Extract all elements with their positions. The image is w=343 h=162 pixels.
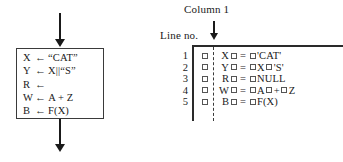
outgoing-flow-line	[59, 119, 61, 146]
code-expression-3: NULL	[257, 73, 285, 84]
blank-marker-icon	[202, 64, 208, 70]
blank-marker-icon	[231, 53, 237, 59]
process-statement-1: X←“CAT”	[23, 51, 78, 64]
incoming-arrow-down-icon	[55, 39, 65, 47]
code-expression-2b: 'S'	[274, 62, 284, 73]
code-target-4: W	[218, 85, 229, 97]
line-number: 5	[170, 96, 188, 108]
statement-target-5: B	[23, 104, 33, 117]
statement-target-3: R	[23, 78, 33, 91]
blank-marker-icon	[250, 76, 256, 82]
assign-arrow-icon-4: ←	[33, 91, 48, 103]
assign-arrow-icon-5: ←	[33, 104, 48, 116]
code-expression-4a: A	[257, 85, 265, 96]
column-1-label: Column 1	[184, 3, 229, 15]
line-number-column: 1 2 3 4 5	[170, 50, 188, 108]
blank-marker-icon	[202, 53, 208, 59]
code-equals-4: =	[238, 85, 248, 96]
blank-marker-icon	[202, 87, 208, 93]
code-line-4: W=A+Z	[200, 85, 295, 97]
process-statements: X←“CAT” Y←X||“S” R← W←A + Z B←F(X)	[23, 51, 78, 117]
blank-marker-icon	[202, 76, 208, 82]
blank-marker-icon	[231, 87, 237, 93]
line-number: 3	[170, 73, 188, 85]
line-number: 4	[170, 85, 188, 97]
code-expression-4b: Z	[289, 85, 296, 96]
blank-marker-icon	[266, 87, 272, 93]
blank-marker-icon	[231, 76, 237, 82]
statement-expression-2: X||“S”	[48, 65, 76, 76]
statement-expression-5: F(X)	[48, 105, 69, 116]
code-listing: Column 1 Line no. 1 2 3 4 5 X='CAT' Y=X'…	[160, 0, 343, 162]
listing-left-margin-rule	[192, 45, 194, 121]
process-statement-2: Y←X||“S”	[23, 64, 78, 77]
blank-marker-icon	[250, 53, 256, 59]
code-line-column: X='CAT' Y=X'S' R=NULL W=A+Z B=F(X)	[200, 50, 295, 108]
line-number: 2	[170, 62, 188, 74]
code-line-3: R=NULL	[200, 73, 295, 85]
code-target-5: B	[218, 96, 229, 108]
code-equals-5: =	[238, 96, 248, 107]
code-target-1: X	[218, 50, 229, 62]
statement-expression-4: A + Z	[48, 92, 73, 103]
code-expression-5: F(X)	[257, 96, 278, 107]
outgoing-arrow-down-icon	[55, 144, 65, 152]
process-statement-5: B←F(X)	[23, 104, 78, 117]
blank-marker-icon	[231, 99, 237, 105]
blank-marker-icon	[250, 99, 256, 105]
code-target-2: Y	[218, 62, 229, 74]
code-target-3: R	[218, 73, 229, 85]
code-operator-4: +	[274, 85, 280, 96]
statement-target-4: W	[23, 91, 33, 104]
code-line-1: X='CAT'	[200, 50, 295, 62]
process-statement-4: W←A + Z	[23, 91, 78, 104]
line-number: 1	[170, 50, 188, 62]
code-expression-1: 'CAT'	[257, 50, 281, 61]
code-line-5: B=F(X)	[200, 96, 295, 108]
assign-arrow-icon-2: ←	[33, 64, 48, 76]
code-equals-2: =	[238, 62, 248, 73]
code-equals-3: =	[238, 73, 248, 84]
statement-target-2: Y	[23, 64, 33, 77]
blank-marker-icon	[231, 64, 237, 70]
blank-marker-icon	[250, 64, 256, 70]
blank-marker-icon	[281, 87, 287, 93]
incoming-flow-line	[59, 13, 61, 41]
flowchart-diagram: X←“CAT” Y←X||“S” R← W←A + Z B←F(X)	[0, 0, 160, 162]
statement-expression-1: “CAT”	[48, 52, 78, 63]
process-box: X←“CAT” Y←X||“S” R← W←A + Z B←F(X)	[16, 48, 104, 119]
assign-arrow-icon-1: ←	[33, 51, 48, 63]
blank-marker-icon	[250, 87, 256, 93]
blank-marker-icon	[266, 64, 272, 70]
blank-marker-icon	[202, 99, 208, 105]
process-statement-3: R←	[23, 78, 78, 91]
code-line-2: Y=X'S'	[200, 62, 295, 74]
code-expression-2a: X	[257, 62, 265, 73]
column-pointer-arrow-down-icon	[210, 33, 218, 40]
code-equals-1: =	[238, 50, 248, 61]
assign-arrow-icon-3: ←	[33, 78, 48, 90]
statement-target-1: X	[23, 51, 33, 64]
line-number-header-label: Line no.	[160, 29, 198, 41]
